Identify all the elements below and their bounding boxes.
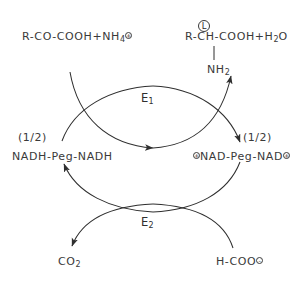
diagram-canvas: L R-CO-COOH+NH4+ R-CH-COOH+H2O NH2 E1 E2… [0, 0, 308, 282]
cofactor-reduced-label: NADH-Peg-NADH [12, 151, 113, 163]
enzyme-2-text: E [141, 215, 149, 229]
stoichiometry-right-label: (1/2) [243, 131, 272, 144]
amine-text: NH [207, 63, 225, 76]
enzyme-1-subscript: 1 [149, 97, 154, 106]
cofactor-reduced-text: NADH-Peg-NADH [12, 150, 113, 163]
stoichiometry-left-label: (1/2) [18, 131, 47, 144]
substrate-keto-acid-text: R-CO-COOH+NH [22, 30, 120, 43]
amine-substituent-label: NH2 [207, 64, 230, 78]
carbon-dioxide-text: CO [58, 255, 76, 268]
enzyme-2-subscript: 2 [149, 221, 154, 230]
enzyme-1-text: E [141, 91, 149, 105]
cofactor-oxidized-label: +NAD-Peg-NAD+ [193, 151, 290, 163]
carbon-dioxide-label: CO2 [58, 256, 81, 270]
substrate-keto-acid-label: R-CO-COOH+NH4+ [22, 31, 132, 45]
formate-label: H-COO- [216, 256, 263, 268]
product-amino-acid-label: R-CH-COOH+H2O [185, 31, 288, 45]
cation-charge-left-icon: + [193, 152, 200, 159]
anion-charge-icon: - [256, 257, 263, 264]
amine-subscript: 2 [225, 68, 230, 77]
cofactor-oxidized-text: NAD-Peg-NAD [200, 150, 283, 163]
water-oxygen-text: O [279, 30, 288, 43]
formate-text: H-COO [216, 255, 256, 268]
carbon-dioxide-subscript: 2 [76, 260, 81, 269]
cation-charge-right-icon: + [283, 152, 290, 159]
enzyme-1-label: E1 [141, 91, 154, 106]
product-amino-acid-text: R-CH-COOH+H [185, 30, 273, 43]
cation-charge-icon: + [125, 32, 132, 39]
arc-substrate-to-enzyme1 [70, 72, 153, 148]
enzyme-2-label: E2 [141, 215, 154, 230]
